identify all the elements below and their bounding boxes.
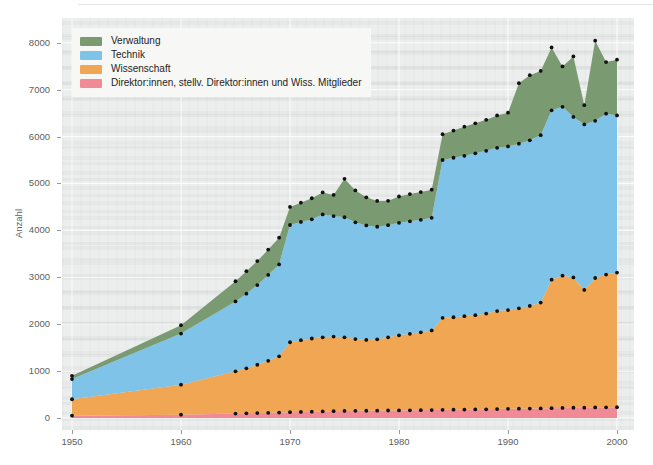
data-point-marker (561, 105, 565, 109)
x-axis-tick-label: 1980 (379, 436, 419, 447)
data-point-marker (343, 215, 347, 219)
data-point-marker (495, 146, 499, 150)
y-axis-tick (57, 418, 61, 419)
data-point-marker (321, 190, 325, 194)
data-point-marker (245, 269, 249, 273)
data-point-marker (375, 337, 379, 341)
data-point-marker (332, 335, 336, 339)
y-axis-tick-label: 2000 (8, 318, 50, 329)
data-point-marker (70, 377, 74, 381)
data-point-marker (321, 410, 325, 414)
x-axis-tick (290, 430, 291, 434)
data-point-marker (277, 354, 281, 358)
data-point-marker (179, 332, 183, 336)
data-point-marker (604, 405, 608, 409)
y-axis-title: Anzahl (13, 194, 24, 254)
y-axis-tick (57, 277, 61, 278)
data-point-marker (288, 205, 292, 209)
data-point-marker (234, 412, 238, 416)
data-point-marker (255, 411, 259, 415)
data-point-marker (593, 119, 597, 123)
data-point-marker (550, 278, 554, 282)
data-point-marker (299, 201, 303, 205)
data-point-marker (266, 359, 270, 363)
data-point-marker (517, 306, 521, 310)
data-point-marker (430, 216, 434, 220)
y-axis-tick-label: 1000 (8, 365, 50, 376)
x-axis-tick (72, 430, 73, 434)
data-point-marker (463, 408, 467, 412)
legend-item: Direktor:innen, stellv. Direktor:innen u… (80, 76, 361, 90)
y-axis-tick (57, 137, 61, 138)
data-point-marker (572, 406, 576, 410)
legend-swatch-technik (80, 51, 102, 60)
data-point-marker (310, 410, 314, 414)
data-point-marker (441, 132, 445, 136)
data-point-marker (364, 195, 368, 199)
y-axis-tick (57, 183, 61, 184)
data-point-marker (364, 409, 368, 413)
data-point-marker (484, 312, 488, 316)
chart-page: 010002000300040005000600070008000 Anzahl… (0, 0, 653, 465)
data-point-marker (473, 121, 477, 125)
data-point-marker (343, 335, 347, 339)
data-point-marker (234, 369, 238, 373)
y-axis-tick-label: 5000 (8, 177, 50, 188)
data-point-marker (572, 115, 576, 119)
data-point-marker (386, 335, 390, 339)
data-point-marker (408, 332, 412, 336)
data-point-marker (506, 308, 510, 312)
data-point-marker (179, 413, 183, 417)
data-point-marker (397, 409, 401, 413)
data-point-marker (266, 248, 270, 252)
data-point-marker (245, 411, 249, 415)
data-point-marker (463, 125, 467, 129)
data-point-marker (539, 69, 543, 73)
data-point-marker (343, 409, 347, 413)
data-point-marker (495, 309, 499, 313)
data-point-marker (70, 374, 74, 378)
data-point-marker (354, 220, 358, 224)
data-point-marker (375, 225, 379, 229)
x-axis-tick (617, 430, 618, 434)
data-point-marker (299, 220, 303, 224)
data-point-marker (419, 330, 423, 334)
data-point-marker (572, 275, 576, 279)
y-axis-tick-label: 0 (8, 412, 50, 423)
data-point-marker (354, 337, 358, 341)
data-point-marker (386, 223, 390, 227)
data-point-marker (561, 274, 565, 278)
y-axis-tick-label: 7000 (8, 84, 50, 95)
x-axis-tick-label: 1970 (270, 436, 310, 447)
data-point-marker (277, 262, 281, 266)
data-point-marker (321, 335, 325, 339)
legend-item: Verwaltung (80, 34, 361, 48)
data-point-marker (332, 193, 336, 197)
x-axis-tick-label: 1950 (52, 436, 92, 447)
legend-label-direktorinnen: Direktor:innen, stellv. Direktor:innen u… (111, 76, 361, 90)
data-point-marker (528, 73, 532, 77)
data-point-marker (463, 154, 467, 158)
data-point-marker (288, 340, 292, 344)
data-point-marker (615, 58, 619, 62)
data-point-marker (441, 316, 445, 320)
data-point-marker (473, 151, 477, 155)
data-point-marker (234, 279, 238, 283)
data-point-marker (582, 122, 586, 126)
data-point-marker (364, 338, 368, 342)
data-point-marker (604, 112, 608, 116)
data-point-marker (419, 218, 423, 222)
data-point-marker (506, 145, 510, 149)
data-point-marker (495, 407, 499, 411)
data-point-marker (593, 406, 597, 410)
x-axis-tick (508, 430, 509, 434)
data-point-marker (561, 65, 565, 69)
data-point-marker (528, 138, 532, 142)
data-point-marker (506, 407, 510, 411)
y-axis-tick-label: 8000 (8, 37, 50, 48)
data-point-marker (539, 301, 543, 305)
x-axis-tick (181, 430, 182, 434)
data-point-marker (386, 199, 390, 203)
data-point-marker (332, 409, 336, 413)
data-point-marker (255, 283, 259, 287)
